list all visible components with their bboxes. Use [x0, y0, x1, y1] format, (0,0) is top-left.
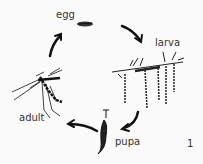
cycle-arrows: [50, 26, 142, 131]
diagram-drawing: [0, 0, 203, 164]
stage-label-egg: egg: [56, 9, 75, 20]
adult-mosquito-icon: [12, 68, 62, 118]
arrow-adult-to-egg-icon: [50, 36, 60, 56]
larva-icon: [112, 52, 184, 108]
stage-label-larva: larva: [155, 37, 180, 48]
stage-label-pupa: pupa: [115, 136, 140, 147]
stage-label-adult: adult: [19, 112, 45, 123]
pupa-icon: [98, 110, 109, 154]
arrow-egg-to-larva-icon: [122, 26, 140, 40]
egg-icon: [77, 22, 93, 27]
figure-number: 1: [187, 138, 193, 149]
